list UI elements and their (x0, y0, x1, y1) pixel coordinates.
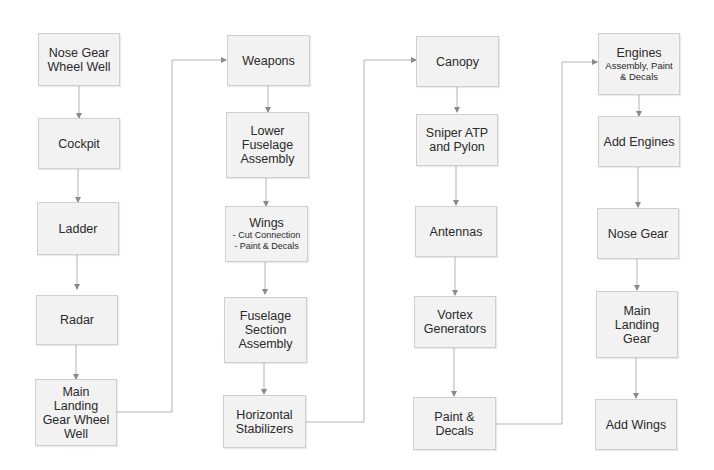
step-vortex-generators: Vortex Generators (414, 296, 496, 348)
step-label: Horizontal Stabilizers (224, 408, 305, 436)
step-label: Engines (616, 46, 661, 60)
step-label: Nose Gear (608, 227, 668, 241)
step-label: Paint & Decals (414, 410, 495, 438)
step-weapons: Weapons (227, 35, 310, 86)
step-label: Add Engines (604, 135, 675, 149)
step-cockpit: Cockpit (38, 118, 120, 169)
step-wings: Wings - Cut Connection - Paint & Decals (225, 206, 308, 262)
step-label: Radar (60, 313, 94, 327)
step-label: Sniper ATP and Pylon (417, 126, 497, 154)
assembly-flowchart: Nose Gear Wheel Well Cockpit Ladder Rada… (0, 0, 714, 470)
step-label: Main Landing Gear (597, 304, 677, 346)
step-add-wings: Add Wings (595, 399, 677, 450)
step-radar: Radar (36, 295, 118, 345)
step-sniper-atp-and-pylon: Sniper ATP and Pylon (416, 114, 498, 166)
step-label: Cockpit (58, 137, 100, 151)
step-subtitle: Assembly, Paint & Decals (599, 60, 679, 82)
step-label: Add Wings (606, 418, 666, 432)
edge-n10-n11 (306, 60, 416, 422)
step-main-landing-gear-wheel-well: Main Landing Gear Wheel Well (35, 379, 117, 446)
edge-n5-n6 (117, 60, 226, 412)
step-add-engines: Add Engines (598, 116, 680, 167)
step-label: Ladder (59, 222, 98, 236)
step-label: Lower Fuselage Assembly (226, 124, 308, 166)
step-label: Antennas (430, 225, 483, 239)
step-label: Fuselage Section Assembly (224, 309, 306, 351)
step-label: Wings (249, 216, 284, 230)
step-fuselage-section-assembly: Fuselage Section Assembly (224, 297, 307, 363)
step-detail: - Cut Connection (233, 230, 301, 241)
step-label: Nose Gear Wheel Well (39, 46, 119, 74)
step-label: Weapons (242, 54, 295, 68)
step-label: Canopy (436, 55, 479, 69)
step-engines: Engines Assembly, Paint & Decals (598, 33, 680, 95)
step-lower-fuselage-assembly: Lower Fuselage Assembly (226, 112, 309, 178)
step-detail: - Paint & Decals (234, 241, 299, 252)
step-horizontal-stabilizers: Horizontal Stabilizers (223, 395, 306, 448)
step-canopy: Canopy (416, 36, 499, 87)
step-label: Main Landing Gear Wheel Well (36, 385, 116, 441)
step-paint-and-decals: Paint & Decals (413, 397, 496, 450)
step-label: Vortex Generators (415, 308, 495, 336)
step-antennas: Antennas (415, 206, 497, 257)
step-nose-gear: Nose Gear (597, 208, 679, 259)
step-main-landing-gear: Main Landing Gear (596, 291, 678, 358)
step-nose-gear-wheel-well: Nose Gear Wheel Well (38, 33, 120, 86)
edge-n15-n16 (496, 62, 597, 424)
step-ladder: Ladder (37, 202, 119, 255)
